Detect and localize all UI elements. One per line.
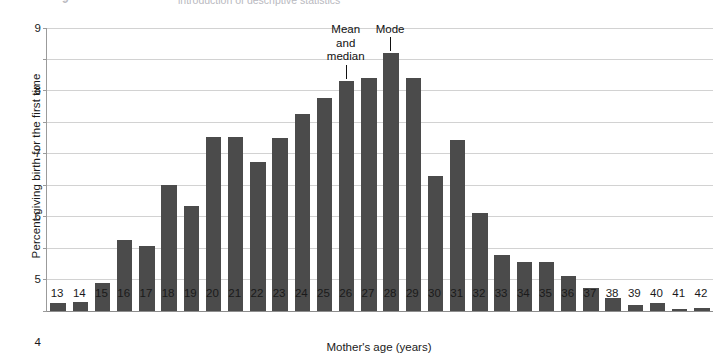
x-tick-label-15: 15: [90, 287, 112, 299]
x-tick-label-29: 29: [401, 287, 423, 299]
x-tick-label-31: 31: [446, 287, 468, 299]
x-tick-label-39: 39: [623, 287, 645, 299]
bar-age-29: [406, 78, 422, 311]
x-tick-label-23: 23: [268, 287, 290, 299]
bar-age-31: [450, 140, 466, 311]
y-axis-title: Percent giving birth for the first time: [30, 36, 42, 296]
x-tick-label-24: 24: [290, 287, 312, 299]
bar-series: [47, 28, 713, 311]
y-tick-label-6: 6: [35, 210, 41, 222]
bar-age-14: [73, 302, 89, 311]
x-tick-label-35: 35: [534, 287, 556, 299]
bar-age-41: [672, 309, 688, 312]
annotation-leader-mode: [390, 37, 391, 51]
x-tick-label-42: 42: [690, 287, 712, 299]
x-tick-label-20: 20: [201, 287, 223, 299]
y-tick-label-5: 5: [35, 273, 41, 285]
bar-age-16: [117, 240, 133, 311]
x-tick-label-32: 32: [468, 287, 490, 299]
x-tick-label-30: 30: [423, 287, 445, 299]
caption-text: introduction of descriptive statistics: [178, 0, 340, 6]
annotation-leader-mean-and-median: [346, 65, 347, 79]
x-axis-title: Mother's age (years): [46, 341, 712, 353]
x-tick-label-16: 16: [113, 287, 135, 299]
x-tick-label-27: 27: [357, 287, 379, 299]
x-tick-label-38: 38: [601, 287, 623, 299]
plot-area: 0123456789: [46, 28, 713, 311]
x-tick-label-18: 18: [157, 287, 179, 299]
bar-age-21: [228, 137, 244, 311]
x-tick-label-17: 17: [135, 287, 157, 299]
x-tick-label-26: 26: [335, 287, 357, 299]
bar-age-28: [383, 53, 399, 311]
bar-age-23: [272, 138, 288, 311]
figure-bar-chart: 9 introduction of descriptive statistics…: [0, 0, 725, 364]
y-tick-label-8: 8: [35, 84, 41, 96]
bar-age-13: [50, 303, 66, 311]
y-tick-label-4: 4: [35, 336, 41, 348]
y-tick-label-7: 7: [35, 147, 41, 159]
bar-age-26: [339, 81, 355, 311]
bar-age-17: [139, 246, 155, 311]
x-tick-label-41: 41: [668, 287, 690, 299]
bar-age-20: [206, 137, 222, 311]
bar-age-27: [361, 78, 377, 311]
x-tick-label-36: 36: [557, 287, 579, 299]
x-tick-label-14: 14: [68, 287, 90, 299]
bar-age-39: [628, 305, 644, 311]
x-tick-label-37: 37: [579, 287, 601, 299]
x-tick-label-33: 33: [490, 287, 512, 299]
x-tick-label-25: 25: [312, 287, 334, 299]
bar-age-38: [605, 298, 621, 311]
x-tick-label-19: 19: [179, 287, 201, 299]
bar-age-25: [317, 98, 333, 311]
y-tick-label-9: 9: [35, 22, 41, 34]
x-tick-label-34: 34: [512, 287, 534, 299]
bar-age-42: [694, 308, 710, 311]
x-tick-label-21: 21: [224, 287, 246, 299]
top-caption: 9 introduction of descriptive statistics: [0, 0, 725, 13]
bar-age-33: [494, 255, 510, 311]
caption-number: 9: [62, 0, 69, 5]
x-tick-label-40: 40: [645, 287, 667, 299]
annotation-mode: Mode: [345, 23, 435, 37]
x-tick-label-13: 13: [46, 287, 68, 299]
x-tick-label-22: 22: [246, 287, 268, 299]
bar-age-24: [295, 114, 311, 311]
bar-age-40: [650, 303, 666, 311]
x-tick-label-28: 28: [379, 287, 401, 299]
